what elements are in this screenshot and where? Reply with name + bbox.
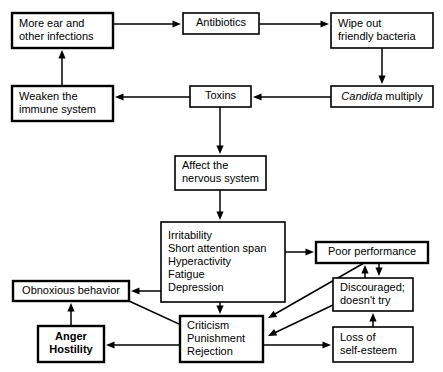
node-label-line: nervous system	[182, 172, 259, 184]
node-label-line: Depression	[168, 281, 224, 293]
edge-loss-self-esteem-to-discouraged	[369, 313, 376, 327]
edge-affect-to-symptoms	[216, 190, 223, 220]
edge-poor-performance-to-discouraged	[375, 263, 382, 276]
node-label-line: Hyperactivity	[168, 255, 231, 267]
node-label-line: Weaken the	[19, 90, 78, 102]
node-label-line: Wipe out	[338, 17, 381, 29]
node-label-line: Criticism	[187, 319, 229, 331]
node-candida-multiply: Candida multiply	[331, 86, 433, 107]
node-label-line: other infections	[19, 30, 94, 42]
node-label-line: Obnoxious behavior	[22, 284, 120, 296]
node-poor-performance: Poor performance	[316, 242, 428, 263]
node-label-line: Candida multiply	[341, 89, 423, 101]
node-label-line: Discouraged;	[340, 281, 405, 293]
node-obnoxious-behavior: Obnoxious behavior	[13, 281, 129, 301]
node-toxins: Toxins	[190, 86, 251, 107]
edge-discouraged-to-criticism	[268, 305, 333, 336]
edge-more-ear-to-antibiotics	[113, 20, 181, 27]
node-label-line: Punishment	[187, 332, 245, 344]
edge-criticism-to-anger	[106, 341, 180, 348]
edge-toxins-to-weaken	[115, 93, 190, 100]
node-label-line: Antibiotics	[196, 16, 247, 28]
node-symptoms: IrritabilityShort attention spanHyperact…	[161, 222, 285, 302]
node-label-line: friendly bacteria	[338, 30, 417, 42]
node-antibiotics: Antibiotics	[183, 13, 259, 34]
nodes-layer: More ear andother infectionsAntibioticsW…	[12, 13, 433, 362]
edge-symptoms-to-criticism	[216, 302, 223, 314]
node-label-line: immune system	[19, 103, 96, 115]
node-anger-hostility: AngerHostility	[38, 326, 104, 362]
edge-candida-to-toxins	[253, 93, 331, 100]
node-label-line: Poor performance	[328, 245, 416, 257]
node-label-line: Irritability	[168, 229, 213, 241]
edge-toxins-to-affect	[216, 107, 223, 154]
node-weaken-immune-system: Weaken theimmune system	[12, 86, 113, 121]
node-label-line: Anger	[55, 330, 88, 342]
node-label-line: Short attention span	[168, 242, 266, 254]
node-label-line: Rejection	[187, 345, 233, 357]
node-affect-nervous-system: Affect thenervous system	[175, 156, 266, 190]
node-criticism-punishment-rejection: CriticismPunishmentRejection	[180, 316, 263, 362]
node-wipe-out-friendly-bacteria: Wipe outfriendly bacteria	[331, 13, 433, 48]
edge-symptoms-to-obnoxious	[131, 287, 161, 294]
flowchart-canvas: More ear andother infectionsAntibioticsW…	[0, 0, 443, 372]
edge-antibiotics-to-wipe-out	[259, 20, 329, 27]
node-label-line: More ear and	[19, 17, 84, 29]
node-label-line: Affect the	[182, 159, 228, 171]
edge-symptoms-to-poor-performance	[285, 248, 314, 255]
node-label-line: Fatigue	[168, 268, 205, 280]
edge-criticism-to-loss-self-esteem	[263, 341, 331, 348]
node-more-ear-infections: More ear andother infections	[12, 13, 113, 48]
edge-wipe-out-to-candida	[378, 48, 385, 84]
edge-discouraged-to-poor-performance	[361, 265, 368, 278]
node-label-line: self-esteem	[340, 344, 397, 356]
node-label-line: Loss of	[340, 331, 376, 343]
flowchart-diagram: More ear andother infectionsAntibioticsW…	[0, 0, 443, 372]
edge-anger-to-obnoxious	[67, 303, 74, 326]
node-discouraged: Discouraged;doesn't try	[333, 278, 413, 311]
node-label-line: Hostility	[49, 343, 93, 355]
node-label-line: doesn't try	[340, 294, 391, 306]
edge-weaken-to-more-ear	[58, 50, 65, 86]
node-label-line: Toxins	[205, 89, 237, 101]
node-loss-of-self-esteem: Loss ofself-esteem	[333, 327, 413, 362]
